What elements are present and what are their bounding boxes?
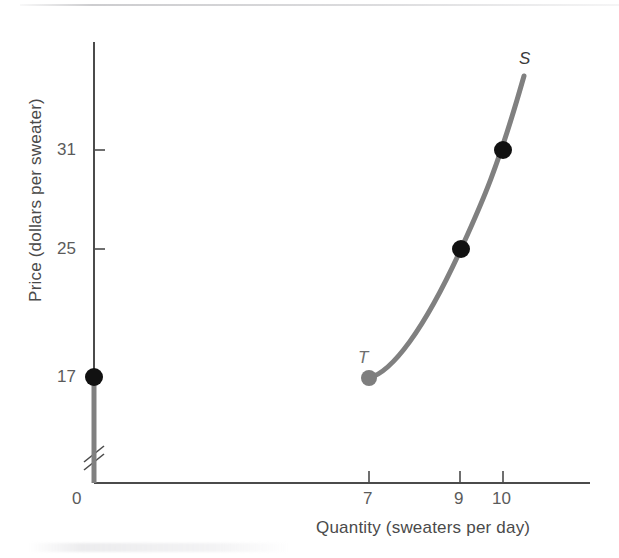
chart-figure: Price (dollars per sweater) Quantity (sw…	[0, 0, 619, 558]
origin-label: 0	[72, 489, 81, 509]
x-axis-title: Quantity (sweaters per day)	[316, 518, 530, 538]
plot-area	[0, 0, 619, 558]
data-point-t-open	[361, 370, 377, 386]
x-tick-label-7: 7	[363, 489, 372, 509]
data-point-10-31	[494, 141, 512, 159]
y-axis-title: Price (dollars per sweater)	[26, 90, 46, 310]
x-tick-label-9: 9	[454, 489, 463, 509]
data-point-9-25	[452, 240, 470, 258]
y-tick-label-31: 31	[57, 140, 76, 160]
y-tick-label-25: 25	[57, 239, 76, 259]
point-label-t: T	[358, 348, 368, 368]
data-point-17-axis	[85, 368, 103, 386]
x-tick-label-10: 10	[492, 489, 511, 509]
curve-label-s: S	[519, 49, 530, 69]
y-tick-label-17: 17	[57, 367, 76, 387]
supply-curve-s	[369, 76, 524, 378]
